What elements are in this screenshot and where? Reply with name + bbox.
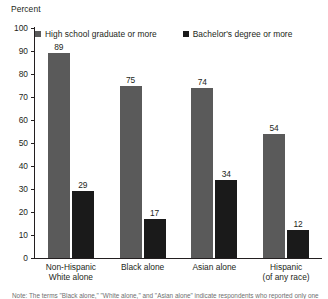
bar-value-label: 75: [126, 75, 135, 85]
bar-group: 8929: [48, 28, 94, 258]
bar: [263, 134, 285, 258]
bar: [120, 86, 142, 259]
y-tick-label: 80: [19, 69, 28, 79]
y-tick-label: 50: [19, 138, 28, 148]
y-tick-mark: [31, 258, 35, 259]
y-tick-label: 70: [19, 92, 28, 102]
plot-area: 8929751774345412: [35, 28, 322, 258]
bar-group: 7434: [191, 28, 237, 258]
category-label-line: White alone: [11, 272, 131, 282]
bar-value-label: 74: [198, 77, 207, 87]
bar-chart: Percent 0102030405060708090100 High scho…: [0, 0, 328, 299]
y-tick-label: 40: [19, 161, 28, 171]
y-axis-title: Percent: [11, 4, 41, 14]
y-tick-label: 10: [19, 230, 28, 240]
bar: [72, 191, 94, 258]
bar-value-label: 29: [78, 180, 87, 190]
x-axis-line: [34, 258, 322, 259]
bar-value-label: 34: [222, 169, 231, 179]
y-tick-label: 0: [23, 253, 28, 263]
category-label-line: (of any race): [226, 272, 328, 282]
category-label-line: Hispanic: [226, 262, 328, 272]
y-tick-label: 20: [19, 207, 28, 217]
y-tick-label: 30: [19, 184, 28, 194]
bar: [287, 230, 309, 258]
bar-value-label: 17: [150, 208, 159, 218]
y-tick-label: 100: [14, 23, 28, 33]
chart-footnote: Note: The terms "Black alone," "White al…: [12, 292, 320, 299]
bar-group: 5412: [263, 28, 309, 258]
bar: [215, 180, 237, 258]
bar-value-label: 89: [54, 42, 63, 52]
bar: [144, 219, 166, 258]
y-tick-label: 60: [19, 115, 28, 125]
y-tick-label: 90: [19, 46, 28, 56]
bar-value-label: 54: [269, 123, 278, 133]
bar-value-label: 12: [293, 219, 302, 229]
bar-group: 7517: [120, 28, 166, 258]
bar: [48, 53, 70, 258]
category-label: Hispanic(of any race): [226, 262, 328, 283]
bar: [191, 88, 213, 258]
